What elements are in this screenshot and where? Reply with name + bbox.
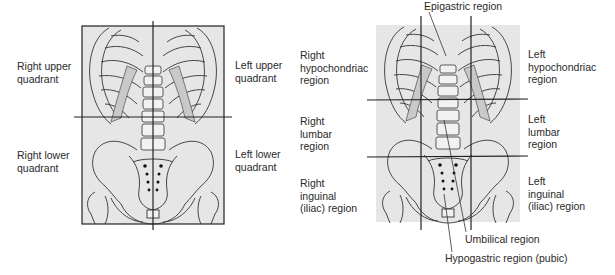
label-right-inguinal-region: Right inguinal (iliac) region bbox=[300, 177, 357, 215]
label-left-hypochondriac-region: Left hypochondriac region bbox=[528, 48, 596, 86]
label-epigastric-region: Epigastric region bbox=[424, 0, 502, 13]
regions-panel bbox=[367, 12, 528, 252]
label-right-lower-quadrant: Right lower quadrant bbox=[17, 149, 70, 174]
label-hypogastric-region: Hypogastric region (pubic) bbox=[445, 252, 568, 265]
label-umbilical-region: Umbilical region bbox=[465, 233, 540, 246]
label-right-lumbar-region: Right lumbar region bbox=[300, 115, 332, 153]
quadrants-panel bbox=[74, 21, 232, 230]
label-left-lumbar-region: Left lumbar region bbox=[528, 113, 560, 151]
label-left-upper-quadrant: Left upper quadrant bbox=[235, 59, 282, 84]
label-right-hypochondriac-region: Right hypochondriac region bbox=[300, 49, 368, 87]
label-right-upper-quadrant: Right upper quadrant bbox=[17, 60, 71, 85]
label-left-lower-quadrant: Left lower quadrant bbox=[235, 148, 281, 173]
label-left-inguinal-region: Left inguinal (iliac) region bbox=[528, 175, 585, 213]
